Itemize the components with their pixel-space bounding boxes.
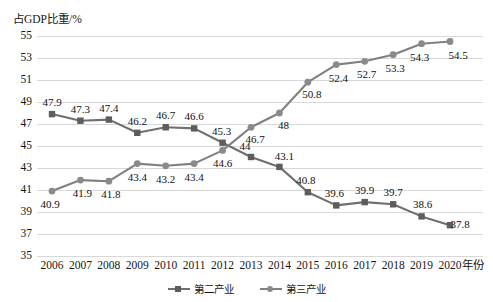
data-point-marker[interactable] [276, 164, 282, 170]
x-tick-label: 2016 [325, 259, 348, 271]
data-point-label: 54.5 [448, 49, 467, 60]
plot-area: 47.947.347.446.246.746.645.34443.140.839… [37, 36, 483, 256]
x-tick-label: 2020 [439, 259, 462, 271]
data-point-label: 39.7 [384, 187, 403, 198]
data-point-marker[interactable] [447, 38, 454, 45]
x-tick-label: 2009 [126, 259, 149, 271]
data-point-marker[interactable] [106, 116, 112, 122]
y-tick-label: 47 [21, 118, 33, 130]
data-point-marker[interactable] [49, 188, 56, 195]
data-point-label: 48 [278, 120, 289, 131]
data-point-marker[interactable] [362, 199, 368, 205]
x-tick-label: 2018 [382, 259, 405, 271]
data-point-marker[interactable] [191, 125, 197, 131]
legend-label-secondary: 第二产业 [194, 281, 234, 296]
data-point-marker[interactable] [219, 140, 225, 146]
data-point-label: 38.6 [413, 199, 432, 210]
data-point-label: 44.6 [213, 158, 232, 169]
data-point-label: 43.1 [275, 150, 294, 161]
x-tick-label: 2011 [183, 259, 206, 271]
data-point-label: 40.8 [296, 175, 315, 186]
data-point-marker[interactable] [134, 130, 140, 136]
legend-item-secondary[interactable]: 第二产业 [168, 281, 234, 296]
legend-item-tertiary[interactable]: 第三产业 [260, 281, 326, 296]
data-point-marker[interactable] [163, 124, 169, 130]
data-point-marker[interactable] [390, 51, 397, 58]
x-tick-label: 2017 [353, 259, 376, 271]
data-point-label: 50.8 [302, 89, 321, 100]
x-tick-label: 2012 [211, 259, 234, 271]
gridline [37, 256, 483, 257]
y-tick-label: 49 [21, 96, 33, 108]
data-point-marker[interactable] [333, 61, 340, 68]
data-point-marker[interactable] [191, 160, 198, 167]
data-point-label: 45.3 [212, 125, 231, 136]
data-point-marker[interactable] [304, 79, 311, 86]
data-point-label: 46.7 [156, 110, 175, 121]
x-tick-label: 2019 [410, 259, 433, 271]
data-point-marker[interactable] [390, 201, 396, 207]
data-point-label: 47.4 [99, 102, 118, 113]
data-point-marker[interactable] [361, 58, 368, 65]
legend-marker-circle-icon [260, 285, 282, 293]
x-tick-label: 2015 [296, 259, 319, 271]
x-axis-unit-label: 年份 [462, 259, 484, 271]
data-point-label: 47.3 [71, 103, 90, 114]
x-tick-label: 2007 [69, 259, 92, 271]
data-point-marker[interactable] [418, 40, 425, 47]
data-point-marker[interactable] [248, 124, 255, 131]
data-point-label: 37.8 [450, 219, 469, 230]
chart-legend: 第二产业 第三产业 [0, 281, 493, 296]
data-point-label: 46.6 [185, 111, 204, 122]
data-point-label: 46.7 [245, 134, 264, 145]
data-point-label: 43.4 [185, 171, 204, 182]
data-point-marker[interactable] [49, 111, 55, 117]
data-point-marker[interactable] [276, 110, 283, 117]
data-point-marker[interactable] [333, 202, 339, 208]
y-tick-label: 37 [21, 228, 33, 240]
x-tick-label: 2013 [240, 259, 263, 271]
y-tick-label: 39 [21, 206, 33, 218]
data-point-label: 41.8 [101, 189, 120, 200]
data-point-label: 43.2 [156, 173, 175, 184]
data-point-label: 47.9 [42, 97, 61, 108]
x-tick-label: 2008 [97, 259, 120, 271]
y-tick-label: 53 [21, 52, 33, 64]
y-tick-label: 41 [21, 184, 33, 196]
legend-label-tertiary: 第三产业 [286, 281, 326, 296]
chart-container: 占GDP比重/% 5553514947454341393735 47.947.3… [0, 0, 493, 302]
data-point-marker[interactable] [219, 147, 226, 154]
x-tick-label: 2014 [268, 259, 291, 271]
data-point-label: 52.4 [329, 72, 348, 83]
data-point-marker[interactable] [77, 118, 83, 124]
series-line-secondary [52, 114, 450, 225]
series-lines [37, 36, 483, 256]
y-tick-label: 35 [21, 250, 33, 262]
data-point-label: 46.2 [128, 115, 147, 126]
data-point-marker[interactable] [105, 178, 112, 185]
data-point-label: 39.9 [355, 185, 374, 196]
x-axis-tick-labels: 2006200720082009201020112012201320142015… [37, 259, 483, 275]
y-axis-tick-labels: 5553514947454341393735 [0, 36, 32, 256]
data-point-label: 54.3 [410, 51, 429, 62]
data-point-label: 52.7 [357, 69, 376, 80]
y-tick-label: 45 [21, 140, 33, 152]
y-tick-label: 51 [21, 74, 33, 86]
data-point-marker[interactable] [248, 154, 254, 160]
data-point-label: 43.4 [128, 171, 147, 182]
data-point-marker[interactable] [418, 213, 424, 219]
data-point-label: 53.3 [386, 62, 405, 73]
data-point-marker[interactable] [134, 160, 141, 167]
data-point-marker[interactable] [305, 189, 311, 195]
data-point-label: 40.9 [40, 199, 59, 210]
data-point-marker[interactable] [77, 177, 84, 184]
data-point-marker[interactable] [162, 162, 169, 169]
x-tick-label: 2010 [154, 259, 177, 271]
y-axis-title: 占GDP比重/% [13, 10, 82, 26]
legend-marker-square-icon [168, 285, 190, 293]
y-tick-label: 43 [21, 162, 33, 174]
data-point-label: 39.6 [325, 188, 344, 199]
data-point-label: 41.9 [73, 188, 92, 199]
x-tick-label: 2006 [41, 259, 64, 271]
y-tick-label: 55 [21, 30, 33, 42]
